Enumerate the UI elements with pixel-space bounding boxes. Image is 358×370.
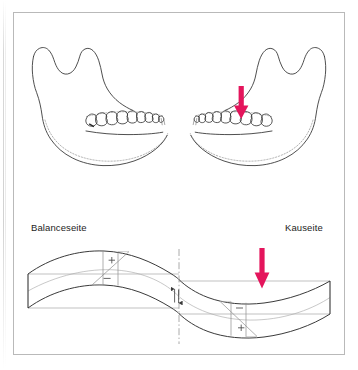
label-balance-side: Balanceseite <box>31 222 87 233</box>
load-arrow-on-beam <box>255 248 270 289</box>
mandible-right-half <box>190 48 325 166</box>
stress-wedge-left <box>92 251 129 285</box>
teeth-left <box>86 111 165 126</box>
mandible-drawing <box>32 48 325 166</box>
mandible-left-half <box>32 48 167 166</box>
teeth-right <box>193 111 272 126</box>
stress-sign-glyphs <box>104 257 245 331</box>
label-chewing-side: Kauseite <box>285 222 323 233</box>
figure-root: Balanceseite Kauseite <box>0 0 358 370</box>
load-arrow-on-molar <box>234 86 248 119</box>
beam-stress-diagram <box>28 248 330 344</box>
stress-wedge-right <box>220 301 257 336</box>
figure-drawing <box>0 0 358 370</box>
